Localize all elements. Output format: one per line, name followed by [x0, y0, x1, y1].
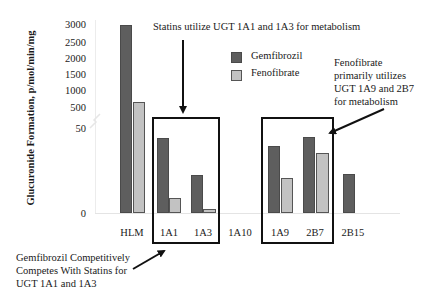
arrow-fenofibrate-icon [330, 109, 384, 133]
arrow-gemfibrozil-icon [133, 251, 164, 269]
arrows-layer [0, 0, 429, 298]
